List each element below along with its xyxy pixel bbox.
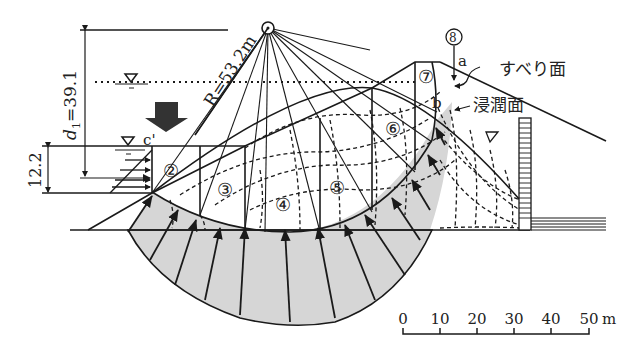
point-c-label: c' bbox=[143, 131, 156, 149]
flow-net bbox=[170, 92, 520, 230]
scale-tick-50: 50 bbox=[579, 310, 598, 328]
depth-symbol: d bbox=[60, 129, 80, 140]
seepage-surface-label: 浸潤面 bbox=[473, 95, 524, 115]
slice-6-label: ⑥ bbox=[385, 118, 401, 139]
hydrostatic-pressure-triangle bbox=[110, 150, 152, 193]
slice-7-label: ⑦ bbox=[418, 66, 434, 87]
depth-value: =39.1 bbox=[60, 70, 80, 122]
point-b-label: b bbox=[432, 94, 442, 112]
scale-tick-10: 10 bbox=[430, 310, 449, 328]
load-arrow-icon bbox=[145, 102, 188, 132]
slope-stability-diagram: R=53.2m d1=39.1 12.2 c' a b ② ③ ④ ⑤ ⑥ ⑦ … bbox=[0, 0, 629, 357]
dimension-d1 bbox=[80, 30, 150, 178]
slice-5-label: ⑤ bbox=[329, 177, 345, 198]
depth-label: d1=39.1 bbox=[60, 70, 83, 140]
point-a-label: a bbox=[458, 52, 467, 70]
slice-3-label: ③ bbox=[217, 179, 233, 200]
scale-tick-0: 0 bbox=[398, 310, 408, 328]
scale-bar: 0 10 20 30 40 50 m bbox=[398, 310, 616, 334]
water-level-icon-seepage bbox=[486, 132, 498, 142]
scale-tick-20: 20 bbox=[467, 310, 486, 328]
slice-4-label: ④ bbox=[275, 194, 291, 215]
slip-surface-label: すべり面 bbox=[499, 59, 566, 79]
scale-unit: m bbox=[602, 310, 616, 328]
height-label: 12.2 bbox=[26, 152, 45, 188]
slice-2-label: ② bbox=[163, 160, 179, 181]
scale-tick-30: 30 bbox=[504, 310, 523, 328]
slice-8-label: 8 bbox=[449, 31, 457, 45]
radius-label: R=53.2m bbox=[200, 31, 261, 110]
depth-subscript: 1 bbox=[70, 122, 83, 129]
scale-tick-40: 40 bbox=[541, 310, 560, 328]
